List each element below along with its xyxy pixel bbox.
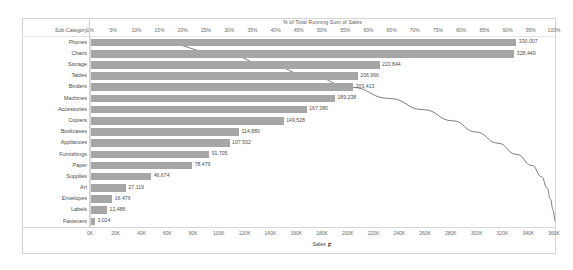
sales-tick-label: 240K	[393, 230, 405, 236]
bar-value-label: 203,413	[356, 84, 375, 89]
sort-descending-icon[interactable]: F	[328, 242, 332, 248]
sales-tick-label: 200K	[342, 230, 354, 236]
bar-row[interactable]: 27,119	[91, 184, 555, 192]
percent-tick-label: 95%	[526, 27, 536, 33]
bar-value-label: 328,449	[517, 51, 536, 56]
bar-row[interactable]: 203,413	[91, 83, 555, 91]
bar-mark[interactable]	[91, 39, 516, 47]
bar-row[interactable]: 78,479	[91, 162, 555, 170]
bar-mark[interactable]	[91, 117, 284, 125]
category-label-accessories[interactable]: Accessories	[58, 107, 87, 112]
category-label-machines[interactable]: Machines	[64, 96, 87, 101]
bar-row[interactable]: 91,705	[91, 151, 555, 159]
percent-tick-label: 40%	[271, 27, 281, 33]
bar-mark[interactable]	[91, 173, 151, 181]
category-label-paper[interactable]: Paper	[73, 163, 87, 168]
bar-mark[interactable]	[91, 206, 107, 214]
bar-row[interactable]: 223,844	[91, 61, 555, 69]
bar-value-label: 16,476	[115, 196, 131, 201]
bar-mark[interactable]	[91, 50, 514, 58]
sales-tick-label: 20K	[111, 230, 120, 236]
category-label-furnishings[interactable]: Furnishings	[59, 152, 87, 157]
percent-tick-label: 35%	[247, 27, 257, 33]
bar-mark[interactable]	[91, 128, 239, 136]
bar-mark[interactable]	[91, 218, 95, 226]
sales-tick-label: 280K	[445, 230, 457, 236]
bar-value-label: 189,238	[337, 95, 356, 100]
category-axis-header: Sub-Category	[55, 27, 87, 33]
category-label-phones[interactable]: Phones	[69, 40, 87, 45]
category-label-art[interactable]: Art	[80, 185, 87, 190]
percent-tick-label: 70%	[410, 27, 420, 33]
category-label-column: Sub-Category PhonesChairsStorageTablesBi…	[24, 27, 87, 227]
category-label-copiers[interactable]: Copiers	[68, 118, 87, 123]
bar-mark[interactable]	[91, 184, 126, 192]
percent-tick-label: 20%	[178, 27, 188, 33]
percent-tick-label: 5%	[110, 27, 117, 33]
category-label-appliances[interactable]: Appliances	[61, 140, 87, 145]
bar-mark[interactable]	[91, 72, 358, 80]
bar-mark[interactable]	[91, 195, 112, 203]
bar-value-label: 223,844	[382, 62, 401, 67]
bar-value-label: 78,479	[195, 162, 211, 167]
sales-axis-ticks: 0K20K40K60K80K100K120K140K160K180K200K22…	[90, 230, 554, 239]
bar-row[interactable]: 189,238	[91, 95, 555, 103]
category-label-labels[interactable]: Labels	[71, 207, 87, 212]
percent-axis-ticks: 0%5%10%15%20%25%30%35%40%45%50%55%60%65%…	[90, 27, 554, 36]
bar-value-label: 91,705	[212, 151, 228, 156]
percent-tick-label: 85%	[479, 27, 489, 33]
sales-tick-label: 100K	[213, 230, 225, 236]
sales-tick-label: 140K	[265, 230, 277, 236]
bar-mark[interactable]	[91, 95, 335, 103]
bar-row[interactable]: 167,380	[91, 106, 555, 114]
bar-value-label: 149,528	[286, 118, 305, 123]
secondary-axis-title: % of Total Running Sum of Sales	[90, 19, 555, 25]
percent-tick-label: 90%	[503, 27, 513, 33]
percent-tick-label: 75%	[433, 27, 443, 33]
bar-value-label: 206,966	[360, 73, 379, 78]
bar-mark[interactable]	[91, 151, 209, 159]
category-label-supplies[interactable]: Supplies	[66, 174, 87, 179]
sales-tick-label: 60K	[163, 230, 172, 236]
bar-mark[interactable]	[91, 139, 230, 147]
percent-tick-label: 50%	[317, 27, 327, 33]
category-label-bookcases[interactable]: Bookcases	[61, 129, 87, 134]
bar-mark[interactable]	[91, 162, 192, 170]
bar-mark[interactable]	[91, 83, 353, 91]
bar-row[interactable]: 16,476	[91, 195, 555, 203]
bar-row[interactable]: 12,486	[91, 206, 555, 214]
percent-tick-label: 15%	[155, 27, 165, 33]
category-label-envelopes[interactable]: Envelopes	[62, 196, 87, 201]
bar-row[interactable]: 330,007	[91, 39, 555, 47]
bar-row[interactable]: 149,528	[91, 117, 555, 125]
percent-tick-label: 65%	[387, 27, 397, 33]
percent-tick-label: 60%	[363, 27, 373, 33]
bar-value-label: 114,880	[242, 129, 260, 134]
category-label-storage[interactable]: Storage	[68, 62, 87, 67]
bar-row[interactable]: 107,532	[91, 139, 555, 147]
bar-row[interactable]: 114,880	[91, 128, 555, 136]
bar-row[interactable]: 328,449	[91, 50, 555, 58]
bar-value-label: 27,119	[128, 185, 143, 190]
bar-row[interactable]: 46,674	[91, 173, 555, 181]
sales-tick-label: 320K	[497, 230, 509, 236]
sales-tick-label: 340K	[522, 230, 534, 236]
category-label-chairs[interactable]: Chairs	[71, 51, 87, 56]
sales-tick-label: 300K	[471, 230, 483, 236]
bar-row[interactable]: 206,966	[91, 72, 555, 80]
bar-row[interactable]: 3,024	[91, 218, 555, 226]
bar-mark[interactable]	[91, 106, 307, 114]
category-label-tables[interactable]: Tables	[71, 73, 87, 78]
category-label-binders[interactable]: Binders	[69, 84, 87, 89]
sales-tick-label: 80K	[189, 230, 198, 236]
percent-tick-label: 55%	[340, 27, 350, 33]
percent-tick-label: 10%	[131, 27, 141, 33]
percent-tick-label: 45%	[294, 27, 304, 33]
bar-value-label: 330,007	[519, 39, 538, 44]
bar-mark[interactable]	[91, 61, 380, 69]
bar-value-label: 46,674	[154, 173, 170, 178]
category-label-fasteners[interactable]: Fasteners	[63, 219, 87, 224]
sales-tick-label: 220K	[368, 230, 380, 236]
axis-divider-bottom	[23, 227, 555, 228]
sales-tick-label: 40K	[137, 230, 146, 236]
